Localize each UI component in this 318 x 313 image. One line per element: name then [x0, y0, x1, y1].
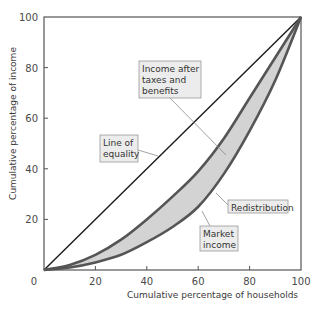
- y-tick-label: 100: [19, 12, 38, 23]
- callout-line-of-equality-leader: [138, 150, 158, 156]
- y-tick-label: 60: [25, 113, 38, 124]
- x-tick-label: 20: [89, 276, 102, 287]
- x-tick-label: 100: [291, 276, 310, 287]
- x-tick-label: 60: [192, 276, 205, 287]
- callout-market-income-text: Market: [203, 229, 234, 239]
- x-tick-label: 0: [31, 276, 37, 287]
- y-tick-label: 20: [25, 214, 38, 225]
- y-tick-label: 40: [25, 164, 38, 175]
- x-axis-title: Cumulative percentage of households: [127, 290, 298, 300]
- y-tick-label: 80: [25, 63, 38, 74]
- callout-line-of-equality-text: equality: [103, 149, 140, 159]
- lorenz-curve-chart: Income aftertaxes andbenefitsLine ofequa…: [0, 0, 318, 313]
- callout-after-tax-income-text: Income after: [142, 64, 200, 74]
- callout-redistribution: Redistribution: [228, 200, 294, 213]
- callout-market-income: Marketincome: [200, 226, 238, 251]
- callout-after-tax-income-leader: [170, 98, 226, 155]
- callout-line-of-equality: Line ofequality: [100, 135, 140, 162]
- y-axis-title: Cumulative percentage of income: [8, 47, 18, 200]
- data-lines: [44, 17, 301, 270]
- callout-after-tax-income-text: benefits: [142, 86, 179, 96]
- line-of-equality: [44, 17, 301, 270]
- callout-after-tax-income-text: taxes and: [142, 75, 186, 85]
- x-tick-label: 80: [243, 276, 256, 287]
- callout-market-income-leader: [202, 211, 210, 226]
- callout-market-income-text: income: [203, 240, 236, 250]
- callout-redistribution-leader: [216, 193, 228, 205]
- callout-line-of-equality-text: Line of: [103, 138, 134, 148]
- callout-after-tax-income: Income aftertaxes andbenefits: [139, 61, 201, 98]
- x-tick-label: 40: [140, 276, 153, 287]
- callout-redistribution-text: Redistribution: [231, 203, 294, 213]
